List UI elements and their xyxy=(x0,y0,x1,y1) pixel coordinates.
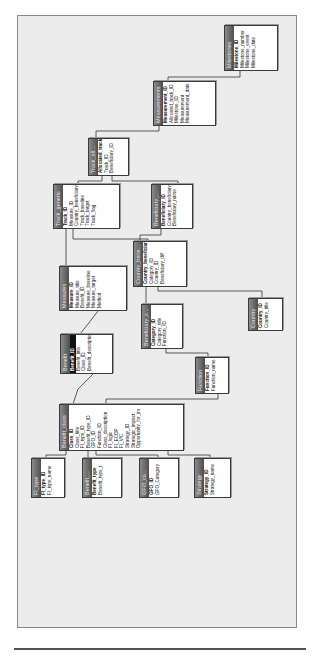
table-title[interactable]: Function xyxy=(196,358,205,393)
table-benefit[interactable]: Benefit Benefit_ID Benefit_title Class_I… xyxy=(60,334,113,374)
relationships-canvas: Milestones Milestone_ID Milestone_number… xyxy=(18,16,297,628)
table-benefit-class[interactable]: Benefit_class Class_ID Class_title FI_ty… xyxy=(59,404,184,451)
table-beneficiary[interactable]: Beneficiary_... Beneficiary_ID Country_b… xyxy=(151,184,193,229)
table-title[interactable]: GFO_ca... xyxy=(140,459,149,497)
field[interactable]: Benefit_description xyxy=(87,335,93,373)
link-trackall-trackgeneric xyxy=(78,176,102,184)
field-primary-key[interactable]: Country_ID xyxy=(258,299,264,330)
relationships-canvas-frame: Milestones Milestone_ID Milestone_number… xyxy=(17,15,297,628)
field[interactable]: GFO_Category xyxy=(155,459,161,497)
field-primary-key[interactable]: Measurement_ID xyxy=(163,82,169,125)
table-title[interactable]: Country xyxy=(249,299,258,330)
field[interactable]: Country_beneficiary_ xyxy=(74,185,80,228)
link-benefitclass-strategy xyxy=(168,451,210,458)
link-measurements-track-all xyxy=(96,126,159,138)
field[interactable]: Function_name xyxy=(211,358,217,393)
field[interactable]: Country_title xyxy=(264,299,270,330)
table-title[interactable]: Benefit_class xyxy=(60,405,69,450)
table-title[interactable]: Benefit_... xyxy=(83,459,92,497)
table-title[interactable]: Track_generic xyxy=(54,185,63,228)
field[interactable]: Milestone_date xyxy=(251,26,257,70)
table-benefit-type[interactable]: Benefit_... Benefit_type Benefit_type_t xyxy=(82,458,122,498)
field[interactable]: Track_flag xyxy=(91,185,97,228)
field[interactable]: Benefit_type_t xyxy=(98,459,104,497)
table-title[interactable]: Strategy xyxy=(195,459,204,497)
table-milestones[interactable]: Milestones Milestone_ID Milestone_number… xyxy=(224,25,278,71)
link-benefit-benefitclass xyxy=(73,374,93,404)
table-track-generic[interactable]: Track_generic Track_ID Measure_ID Countr… xyxy=(53,184,120,229)
table-track-all[interactable]: Track_all... Allocated_track_ Track_ID B… xyxy=(88,138,129,176)
table-title[interactable]: Track_all... xyxy=(89,139,98,175)
link-countrybene-country xyxy=(158,287,262,298)
link-milestones-measurements xyxy=(168,71,240,81)
link-measures-benefit xyxy=(80,311,98,334)
table-fi-type[interactable]: FI_type FI_type_ID FI_type_name xyxy=(31,458,65,498)
table-function[interactable]: Function Function_ID Function_name xyxy=(195,357,229,394)
field-primary-key[interactable]: Function_ID xyxy=(205,358,211,393)
link-function-benefitclass xyxy=(106,394,218,404)
table-country[interactable]: Country Country_ID Country_title xyxy=(248,298,283,331)
table-title[interactable]: Benefit xyxy=(61,335,70,373)
table-title[interactable]: Milestones xyxy=(225,26,234,70)
table-title[interactable]: Beneficiary_c... xyxy=(142,305,151,348)
link-benefitclass-gfocat xyxy=(96,451,158,458)
table-measurements[interactable]: Measurements Measurement_ID Allocated_tr… xyxy=(153,81,216,126)
link-benefitclass-fitype xyxy=(46,451,66,458)
field[interactable]: Beneficiary_ID xyxy=(109,139,115,175)
table-title[interactable]: Measurements xyxy=(154,82,163,125)
field[interactable]: Function_ID xyxy=(162,305,168,348)
link-beneficiaryc-function xyxy=(166,349,208,357)
table-title[interactable]: Country_bene... xyxy=(134,242,143,286)
table-title[interactable]: Measures xyxy=(60,267,69,310)
field[interactable]: Beneficiary_diff xyxy=(160,242,166,286)
field[interactable]: Beneficiary_name xyxy=(172,185,178,228)
table-strategy[interactable]: Strategy Strategy_ID Strategy_name xyxy=(194,458,231,498)
field-primary-key[interactable]: Allocated_track_ xyxy=(98,139,104,175)
field-primary-key[interactable]: Country_beneficiary_I xyxy=(143,242,149,286)
bottom-divider xyxy=(14,648,306,650)
table-country-beneficiary[interactable]: Country_bene... Country_beneficiary_I Ca… xyxy=(133,241,187,287)
link-trackgeneric-countrybene xyxy=(73,229,148,241)
link-trackall-beneficiary xyxy=(112,176,178,184)
field[interactable]: Measurement_date xyxy=(185,82,191,125)
table-beneficiary-category[interactable]: Beneficiary_c... Category_ID Category_ti… xyxy=(141,304,183,349)
table-measures[interactable]: Measures Measure_ID Measure_title Benefi… xyxy=(59,266,127,311)
table-title[interactable]: FI_type xyxy=(32,459,41,497)
field[interactable]: Opportunity_for_im xyxy=(136,405,142,450)
table-gfo-category[interactable]: GFO_ca... GFO_ID GFO_Category xyxy=(139,458,179,498)
field[interactable]: FI_type_name xyxy=(47,459,53,497)
table-title[interactable]: Beneficiary_... xyxy=(152,185,161,228)
field[interactable]: Method xyxy=(97,267,103,310)
field[interactable]: Strategy_name xyxy=(210,459,216,497)
